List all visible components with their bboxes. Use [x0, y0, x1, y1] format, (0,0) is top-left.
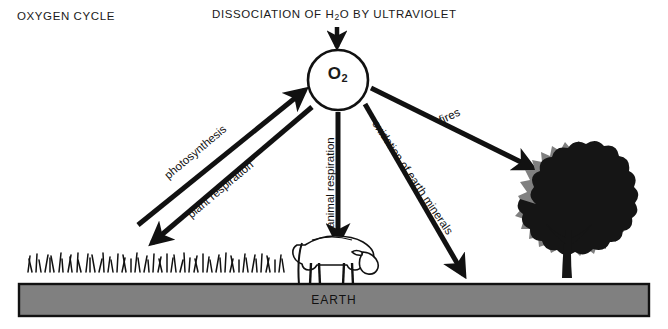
o2-subscript: 2	[342, 72, 349, 84]
arrow-photosynthesis	[138, 90, 305, 225]
o2-node-label: O2	[318, 64, 358, 84]
arrow-label-animal-respiration: animal respiration	[324, 137, 336, 228]
grass	[28, 253, 284, 272]
tree	[515, 141, 638, 278]
o2-symbol: O	[328, 64, 342, 83]
cow	[293, 236, 378, 285]
diagram-canvas: OXYGEN CYCLE DISSOCIATION OF H2O BY ULTR…	[0, 0, 668, 329]
earth-ground-label: EARTH	[0, 293, 668, 307]
